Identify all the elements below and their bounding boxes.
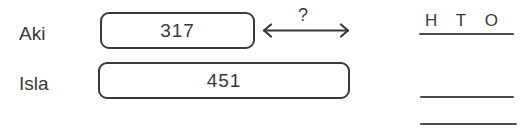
place-value-header-rule	[419, 33, 514, 35]
difference-arrow-icon	[260, 22, 352, 39]
bar-label-aki: Aki	[19, 24, 45, 43]
bar-value-isla: 451	[207, 70, 242, 92]
bar-value-aki: 317	[160, 20, 195, 42]
bar-label-isla: Isla	[19, 74, 49, 93]
place-value-header: H T O	[425, 12, 498, 29]
answer-line-2	[420, 123, 517, 125]
answer-line-1	[420, 96, 514, 98]
place-value-column-hundreds: H	[425, 12, 437, 29]
bar-model-worksheet: Aki 317 ? Isla 451 H T O	[0, 0, 531, 131]
place-value-column-tens: T	[456, 12, 466, 29]
bar-isla: 451	[98, 62, 350, 99]
place-value-column-ones: O	[485, 12, 498, 29]
bar-aki: 317	[100, 12, 255, 49]
